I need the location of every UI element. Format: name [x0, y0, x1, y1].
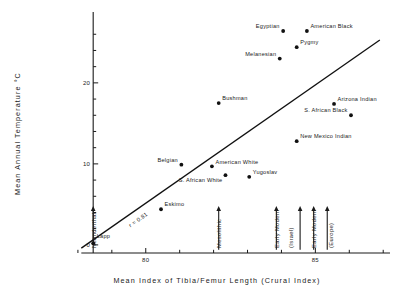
- arrow-label: Mesolithic: [216, 219, 222, 248]
- data-point: [91, 241, 95, 245]
- data-point: [224, 173, 228, 177]
- data-point: [247, 175, 251, 179]
- data-point-label: Yugoslav: [253, 169, 278, 175]
- data-point-label: Egyptian: [256, 23, 280, 29]
- data-point-label: Lapp: [97, 233, 110, 239]
- data-point: [332, 102, 336, 106]
- data-point: [305, 29, 309, 33]
- x-axis-tick-label: 80: [142, 257, 150, 263]
- data-point: [349, 113, 353, 117]
- y-axis-title: Mean Annual Temperature °C: [13, 72, 22, 195]
- arrow-label: (Israel): [288, 227, 294, 248]
- data-point: [217, 101, 221, 105]
- chart-background: [0, 0, 398, 293]
- y-axis-tick-label: 10: [83, 161, 91, 167]
- data-point-label: Pygmy: [300, 39, 318, 45]
- data-point: [278, 57, 282, 61]
- arrow-label: (Europe): [328, 223, 334, 248]
- data-point-label: S. African White: [179, 177, 223, 183]
- data-point: [281, 29, 285, 33]
- arrow-label: Early Modern: [274, 209, 280, 248]
- scatter-chart: 010208085 r = 0.81 NeanderthalMesolithic…: [0, 0, 398, 293]
- data-point-label: Eskimo: [165, 201, 185, 207]
- data-point-label: Bushman: [222, 95, 247, 101]
- data-point: [295, 139, 299, 143]
- data-point-label: Belgian: [157, 157, 177, 163]
- x-axis-tick-label: 85: [312, 257, 320, 263]
- chart-svg: 010208085 r = 0.81 NeanderthalMesolithic…: [0, 0, 398, 293]
- x-axis-title: Mean Index of Tibia/Femur Length (Crural…: [113, 276, 320, 285]
- y-axis-tick-label: 20: [83, 80, 91, 86]
- data-point-label: Arizona Indian: [338, 96, 377, 102]
- data-point-label: New Mexico Indian: [300, 133, 352, 139]
- data-point: [295, 45, 299, 49]
- data-point: [210, 164, 214, 168]
- data-point-label: American Black: [310, 23, 352, 29]
- data-point: [159, 207, 163, 211]
- data-point-label: S. African Black: [304, 107, 347, 113]
- data-point-label: American White: [215, 159, 258, 165]
- data-point-label: Melanesian: [245, 51, 276, 57]
- data-point: [179, 163, 183, 167]
- arrow-label: Early Modern: [311, 209, 317, 248]
